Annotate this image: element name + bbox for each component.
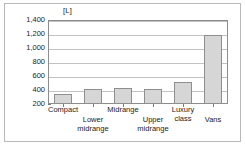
x-axis-category-labels: CompactLowermidrangeMidrangeUppermidrang…	[0, 0, 245, 146]
x-axis-category-label: Vans	[173, 116, 245, 125]
x-axis-category-label-line: midrange	[113, 125, 193, 134]
x-axis-category-label-line: Vans	[173, 116, 245, 125]
chart-figure: [L] 2004006008001,0001,2001,400 CompactL…	[0, 0, 245, 146]
